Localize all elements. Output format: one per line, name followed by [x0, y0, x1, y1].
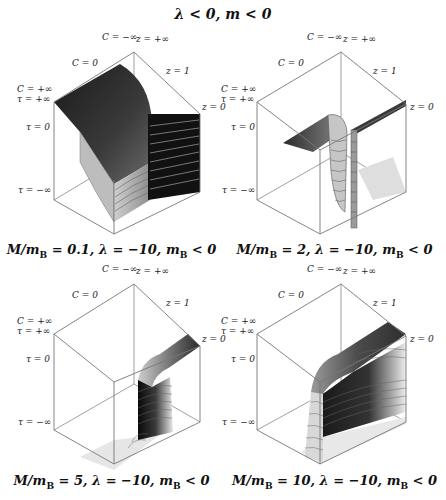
- label-z-plus-inf: z = +∞: [136, 266, 169, 276]
- label-z-plus-inf: z = +∞: [136, 34, 169, 44]
- label-tau-zero: τ = 0: [231, 354, 255, 364]
- panel-3: C = −∞ z = +∞ C = 0 z = 1 C = +∞ τ = +∞ …: [0, 262, 223, 500]
- figure-title: λ < 0, m < 0: [0, 6, 446, 22]
- label-c-minus-inf: C = −∞: [307, 264, 342, 274]
- label-c-plus-inf: C = +∞: [221, 316, 256, 326]
- label-tau-minus-inf: τ = −∞: [222, 185, 255, 195]
- caption-2: M/mB = 2, λ = −10, mB < 0: [223, 242, 446, 260]
- cube-plot-2: [223, 22, 446, 262]
- label-tau-zero: τ = 0: [231, 122, 255, 132]
- label-c-plus-inf: C = +∞: [17, 84, 52, 94]
- label-tau-minus-inf: τ = −∞: [18, 417, 51, 427]
- label-tau-plus-inf: τ = +∞: [17, 326, 50, 336]
- label-z-one: z = 1: [166, 298, 190, 308]
- label-tau-plus-inf: τ = +∞: [17, 94, 50, 104]
- label-c-zero: C = 0: [72, 290, 98, 300]
- label-c-zero: C = 0: [72, 58, 98, 68]
- label-c-plus-inf: C = +∞: [17, 316, 52, 326]
- panel-4: C = −∞ z = +∞ C = 0 z = 1 C = +∞ τ = +∞ …: [223, 262, 446, 500]
- label-z-plus-inf: z = +∞: [343, 266, 376, 276]
- label-z-zero: z = 0: [410, 334, 434, 344]
- label-c-minus-inf: C = −∞: [102, 264, 137, 274]
- label-tau-plus-inf: τ = +∞: [221, 94, 254, 104]
- label-tau-zero: τ = 0: [26, 122, 50, 132]
- cube-plot-1: [0, 22, 223, 262]
- label-c-zero: C = 0: [278, 58, 304, 68]
- caption-3: M/mB = 5, λ = −10, mB < 0: [0, 473, 223, 491]
- label-z-zero: z = 0: [410, 102, 434, 112]
- label-z-one: z = 1: [373, 66, 397, 76]
- label-z-one: z = 1: [373, 298, 397, 308]
- label-c-minus-inf: C = −∞: [102, 32, 137, 42]
- panel-2: C = −∞ z = +∞ C = 0 z = 1 C = +∞ τ = +∞ …: [223, 22, 446, 262]
- label-c-zero: C = 0: [278, 290, 304, 300]
- caption-1: M/mB = 0.1, λ = −10, mB < 0: [0, 242, 223, 260]
- label-z-plus-inf: z = +∞: [343, 34, 376, 44]
- label-tau-minus-inf: τ = −∞: [222, 417, 255, 427]
- panel-1: C = −∞ z = +∞ C = 0 z = 1 C = +∞ τ = +∞ …: [0, 22, 223, 262]
- label-c-plus-inf: C = +∞: [221, 84, 256, 94]
- label-tau-zero: τ = 0: [26, 354, 50, 364]
- label-c-minus-inf: C = −∞: [307, 32, 342, 42]
- cube-plot-4: [223, 262, 446, 500]
- caption-4: M/mB = 10, λ = −10, mB < 0: [223, 473, 446, 491]
- label-z-one: z = 1: [166, 66, 190, 76]
- label-tau-minus-inf: τ = −∞: [18, 185, 51, 195]
- label-tau-plus-inf: τ = +∞: [221, 326, 254, 336]
